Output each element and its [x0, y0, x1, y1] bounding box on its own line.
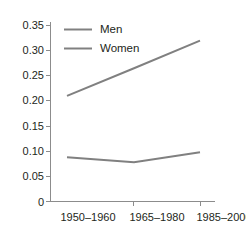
x-tick-label: 1985–2000: [196, 211, 246, 223]
legend-label-women: Women: [100, 42, 139, 54]
y-axis-ticks: [46, 26, 51, 202]
y-axis-tick-labels: 0.35 0.30 0.25 0.20 0.15 0.10 0.05 0: [23, 19, 44, 208]
y-tick-label: 0.20: [23, 94, 44, 106]
line-chart: 0.35 0.30 0.25 0.20 0.15 0.10 0.05 0: [0, 0, 246, 246]
chart-canvas: 0.35 0.30 0.25 0.20 0.15 0.10 0.05 0: [0, 0, 246, 246]
y-tick-label: 0.30: [23, 44, 44, 56]
x-tick-label: 1965–1980: [129, 211, 184, 223]
y-tick-label: 0: [38, 196, 44, 208]
series-line-women: [67, 152, 200, 162]
y-tick-label: 0.25: [23, 69, 44, 81]
x-axis-ticks: [134, 202, 201, 207]
legend-label-men: Men: [100, 23, 122, 35]
x-axis-tick-labels: 1950–1960 1965–1980 1985–2000: [60, 211, 246, 223]
x-tick-label: 1950–1960: [60, 211, 115, 223]
y-tick-label: 0.05: [23, 170, 44, 182]
chart-legend: Men Women: [64, 23, 139, 54]
y-tick-label: 0.10: [23, 145, 44, 157]
y-tick-label: 0.15: [23, 120, 44, 132]
y-tick-label: 0.35: [23, 19, 44, 31]
